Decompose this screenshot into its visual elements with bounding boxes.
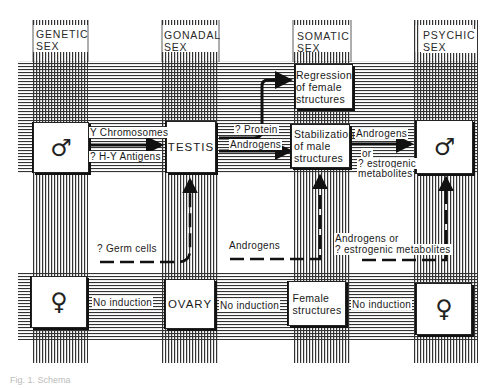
label-y-chromosomes: Y Chromosomes	[89, 127, 169, 138]
regression-line1: Regression	[296, 69, 352, 81]
stabilization-line3: structures	[294, 152, 355, 164]
ovary-label: OVARY	[168, 298, 212, 310]
psychic-female-box: ♀	[416, 283, 472, 335]
label-germ-cells: ? Germ cells	[96, 243, 158, 254]
ovary-box: OVARY	[165, 279, 215, 329]
header-gonadal-sex: GONADAL SEX	[164, 29, 221, 53]
label-androgens-psychic: Androgens	[355, 128, 408, 139]
testis-label: TESTIS	[168, 141, 214, 153]
label-androgens-dashed: Androgens	[228, 240, 281, 251]
label-estrogenic-metabolites: ? estrogenic metabolites	[334, 244, 452, 255]
label-metabolites: metabolites	[357, 168, 413, 179]
label-androgens-testis: Androgens	[229, 139, 282, 150]
male-symbol-icon: ♂	[434, 135, 456, 159]
figure-caption: Fig. 1. Schema	[10, 375, 71, 385]
label-no-induction-2: No induction	[219, 300, 280, 311]
header-genetic-line2: SEX	[36, 40, 88, 52]
label-no-induction-3: No induction	[351, 299, 412, 310]
female-structures-line1: Female	[292, 292, 341, 304]
stabilization-male-structures-box: Stabilization of male structures	[291, 124, 350, 168]
regression-line3: structures	[296, 93, 352, 105]
header-psychic-line1: PSYCHIC	[423, 29, 475, 41]
label-protein: ? Protein	[234, 124, 279, 135]
label-androgens-or: Androgens or	[334, 233, 400, 244]
header-genetic-sex: GENETIC SEX	[36, 28, 88, 52]
testis-box: TESTIS	[166, 121, 216, 173]
regression-label: Regression of female structures	[296, 69, 352, 105]
regression-line2: of female	[296, 81, 352, 93]
sex-differentiation-diagram: GENETIC SEX GONADAL SEX SOMATIC SEX PSYC…	[0, 0, 494, 388]
stabilization-line2: of male	[294, 140, 355, 152]
regression-female-structures-box: Regression of female structures	[295, 64, 353, 109]
header-somatic-line2: SEX	[297, 42, 350, 54]
label-hy-antigens: ? H-Y Antigens	[89, 151, 162, 162]
female-structures-line2: structures	[292, 304, 341, 316]
male-symbol-icon: ♂	[50, 136, 72, 160]
female-structures-label: Female structures	[292, 292, 341, 316]
female-symbol-icon: ♀	[435, 297, 453, 321]
stabilization-label: Stabilization of male structures	[294, 128, 355, 164]
genetic-male-box: ♂	[33, 122, 89, 173]
female-symbol-icon: ♀	[50, 290, 68, 314]
psychic-male-box: ♂	[416, 120, 473, 174]
label-no-induction-1: No induction	[92, 297, 153, 308]
header-stripes	[33, 20, 478, 62]
header-psychic-sex: PSYCHIC SEX	[421, 29, 477, 53]
header-genetic-line1: GENETIC	[36, 28, 88, 40]
header-gonadal-line2: SEX	[164, 41, 221, 53]
header-psychic-line2: SEX	[423, 41, 475, 53]
genetic-female-box: ♀	[31, 276, 87, 328]
stabilization-line1: Stabilization	[294, 128, 355, 140]
female-structures-box: Female structures	[288, 281, 346, 326]
header-gonadal-line1: GONADAL	[164, 29, 221, 41]
header-somatic-line1: SOMATIC	[297, 30, 350, 42]
header-somatic-sex: SOMATIC SEX	[297, 30, 350, 54]
